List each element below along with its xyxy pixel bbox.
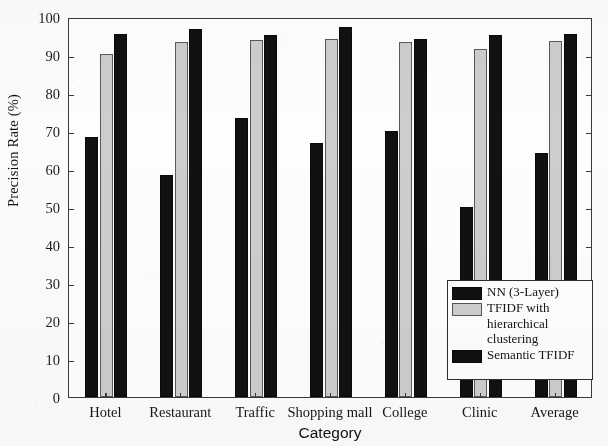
x-tick-label: Restaurant xyxy=(149,404,211,421)
y-tick-mark xyxy=(69,247,74,248)
y-tick-label: 10 xyxy=(46,352,61,369)
bar xyxy=(325,39,338,397)
chart-page: Precision Rate (%) 010203040506070809010… xyxy=(0,0,608,446)
x-tick-label: Clinic xyxy=(462,404,497,421)
x-tick-mark xyxy=(405,393,406,398)
bar xyxy=(339,27,352,397)
y-tick-mark xyxy=(69,133,74,134)
y-tick-mark xyxy=(586,209,591,210)
legend-entry: NN (3-Layer) xyxy=(452,284,589,300)
bar xyxy=(250,40,263,397)
x-axis-title: Category xyxy=(68,424,592,442)
x-tick-label: College xyxy=(382,404,427,421)
x-axis: HotelRestaurantTrafficShopping mallColle… xyxy=(68,398,592,446)
y-axis: Precision Rate (%) 010203040506070809010… xyxy=(0,0,68,446)
y-tick-mark xyxy=(586,57,591,58)
y-tick-mark xyxy=(69,209,74,210)
bar xyxy=(189,29,202,397)
x-tick-mark xyxy=(330,393,331,398)
x-tick-mark xyxy=(480,393,481,398)
x-tick-label: Hotel xyxy=(89,404,121,421)
bar xyxy=(399,42,412,397)
y-tick-label: 60 xyxy=(46,162,61,179)
x-tick-mark xyxy=(180,393,181,398)
legend-label: Semantic TFIDF xyxy=(487,347,575,363)
bar xyxy=(160,175,173,397)
legend-entry: TFIDF with hierarchical clustering xyxy=(452,300,589,347)
y-tick-mark xyxy=(586,95,591,96)
legend-entry: Semantic TFIDF xyxy=(452,347,589,363)
y-tick-label: 40 xyxy=(46,238,61,255)
y-tick-mark xyxy=(69,361,74,362)
legend-label: NN (3-Layer) xyxy=(487,284,559,300)
y-tick-label: 90 xyxy=(46,48,61,65)
y-tick-mark xyxy=(586,133,591,134)
x-tick-label: Traffic xyxy=(235,404,274,421)
bar xyxy=(175,42,188,397)
y-tick-label: 100 xyxy=(38,10,60,27)
bar xyxy=(85,137,98,397)
y-tick-mark xyxy=(69,171,74,172)
x-tick-mark xyxy=(255,393,256,398)
x-tick-mark xyxy=(105,393,106,398)
bar xyxy=(114,34,127,397)
y-tick-label: 70 xyxy=(46,124,61,141)
chart-legend: NN (3-Layer)TFIDF with hierarchical clus… xyxy=(447,280,593,380)
y-tick-mark xyxy=(69,285,74,286)
bar xyxy=(264,35,277,397)
bar xyxy=(310,143,323,397)
y-tick-mark xyxy=(69,57,74,58)
y-tick-mark xyxy=(69,95,74,96)
bar xyxy=(385,131,398,397)
x-tick-label: Average xyxy=(531,404,579,421)
y-tick-label: 80 xyxy=(46,86,61,103)
x-tick-mark xyxy=(555,393,556,398)
y-axis-title: Precision Rate (%) xyxy=(5,46,22,256)
bar xyxy=(235,118,248,397)
y-tick-label: 50 xyxy=(46,200,61,217)
x-tick-label: Shopping mall xyxy=(288,404,373,421)
legend-swatch xyxy=(452,350,482,363)
bar xyxy=(414,39,427,397)
legend-label: TFIDF with hierarchical clustering xyxy=(487,300,549,347)
bar xyxy=(100,54,113,397)
y-tick-mark xyxy=(586,247,591,248)
legend-swatch xyxy=(452,303,482,316)
legend-swatch xyxy=(452,287,482,300)
y-tick-mark xyxy=(586,171,591,172)
y-tick-label: 30 xyxy=(46,276,61,293)
y-tick-label: 0 xyxy=(53,390,60,407)
y-tick-label: 20 xyxy=(46,314,61,331)
y-tick-mark xyxy=(69,323,74,324)
